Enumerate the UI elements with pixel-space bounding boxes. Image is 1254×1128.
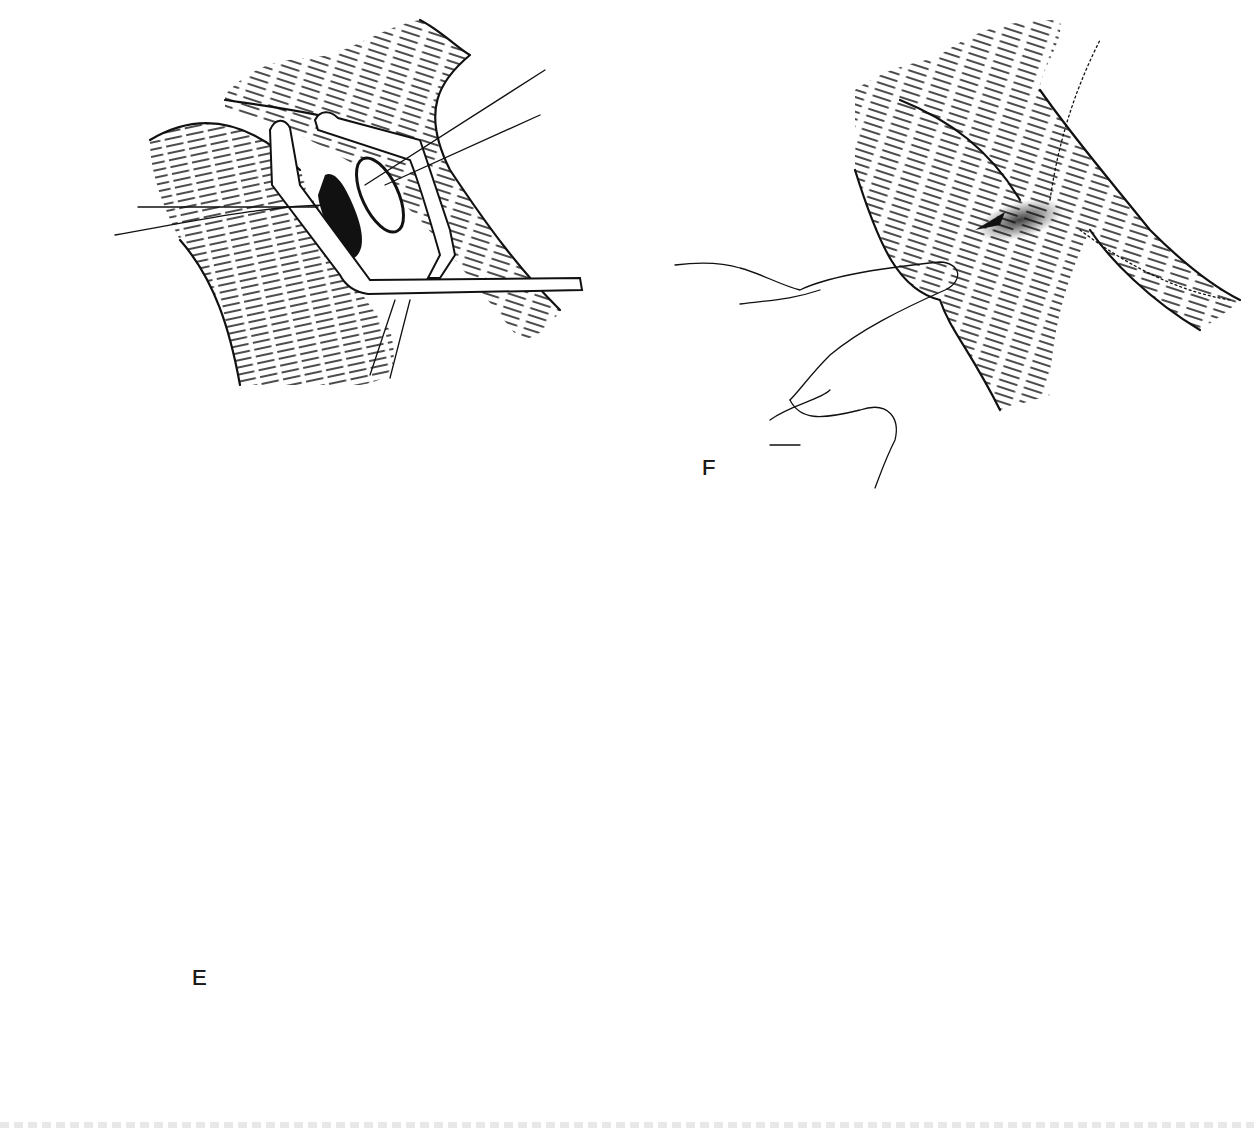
panel-label-f: F: [702, 455, 715, 481]
cropped-caption: [0, 1122, 1254, 1128]
surgical-illustration: [0, 0, 1254, 1128]
panel-f: [675, 20, 1240, 488]
panel-top-left: [115, 20, 582, 385]
panel-label-e: E: [192, 965, 207, 991]
